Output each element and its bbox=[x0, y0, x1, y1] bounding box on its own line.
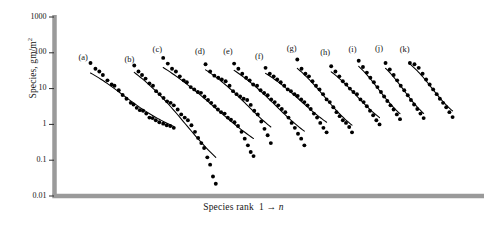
data-point bbox=[243, 137, 247, 141]
data-point bbox=[306, 103, 310, 107]
data-point bbox=[312, 112, 316, 116]
data-point bbox=[223, 112, 227, 116]
data-point bbox=[438, 97, 442, 101]
data-point bbox=[357, 59, 361, 63]
data-point bbox=[259, 120, 263, 124]
data-point bbox=[161, 56, 165, 60]
y-tick-label: 10 bbox=[39, 83, 47, 92]
data-point bbox=[235, 92, 239, 96]
data-point bbox=[337, 74, 341, 78]
series-label: (h) bbox=[320, 47, 330, 57]
data-point bbox=[199, 91, 203, 95]
data-point bbox=[321, 126, 325, 130]
series-fit-line bbox=[234, 70, 304, 131]
data-point bbox=[199, 141, 203, 145]
data-point bbox=[402, 88, 406, 92]
data-point bbox=[318, 121, 322, 125]
data-point bbox=[431, 87, 435, 91]
y-tick-label: 0.01 bbox=[33, 191, 47, 200]
data-point bbox=[372, 80, 376, 84]
data-point bbox=[307, 74, 311, 78]
data-point bbox=[348, 87, 352, 91]
data-point bbox=[441, 101, 445, 105]
data-point bbox=[212, 74, 216, 78]
data-point bbox=[347, 125, 351, 129]
data-point bbox=[351, 90, 355, 94]
x-axis-title-prefix: Species rank bbox=[203, 202, 254, 212]
series-label: (d) bbox=[195, 46, 205, 56]
data-point bbox=[209, 101, 213, 105]
data-point bbox=[202, 146, 206, 150]
data-point bbox=[368, 76, 372, 80]
data-point bbox=[275, 78, 279, 82]
data-point bbox=[186, 118, 190, 122]
data-point bbox=[395, 112, 399, 116]
data-point bbox=[314, 84, 318, 88]
data-point bbox=[226, 116, 230, 120]
series-label: (c) bbox=[153, 44, 162, 54]
data-point bbox=[338, 114, 342, 118]
data-point bbox=[384, 61, 388, 65]
data-point bbox=[179, 112, 183, 116]
data-point bbox=[216, 108, 220, 112]
data-point bbox=[240, 130, 244, 134]
data-point bbox=[303, 72, 307, 76]
data-point bbox=[147, 81, 151, 85]
data-point bbox=[266, 133, 270, 137]
data-point bbox=[302, 143, 306, 147]
series-fit-line bbox=[206, 70, 271, 127]
data-point bbox=[361, 65, 365, 69]
data-point bbox=[161, 122, 165, 126]
data-point bbox=[242, 97, 246, 101]
data-point bbox=[299, 137, 303, 141]
data-point bbox=[169, 101, 173, 105]
data-point bbox=[333, 70, 337, 74]
data-point bbox=[228, 84, 232, 88]
data-series bbox=[89, 56, 455, 186]
data-point bbox=[125, 97, 129, 101]
data-point bbox=[193, 130, 197, 134]
data-point bbox=[422, 116, 426, 120]
data-point bbox=[189, 123, 193, 127]
data-point bbox=[321, 92, 325, 96]
data-point bbox=[341, 118, 345, 122]
data-point bbox=[428, 83, 432, 87]
data-point bbox=[185, 80, 189, 84]
data-point bbox=[309, 107, 313, 111]
series-label: (g) bbox=[287, 43, 297, 53]
data-point bbox=[238, 95, 242, 99]
rank-abundance-figure: Species, gm/m2 Species rank 1 → n 100010… bbox=[0, 0, 487, 225]
data-point bbox=[105, 78, 109, 82]
data-point bbox=[331, 105, 335, 109]
data-point bbox=[359, 97, 363, 101]
data-point bbox=[282, 84, 286, 88]
data-point bbox=[415, 107, 419, 111]
data-point bbox=[214, 182, 218, 186]
series-fit-line bbox=[266, 73, 327, 122]
data-point bbox=[220, 78, 224, 82]
data-point bbox=[262, 91, 266, 95]
data-point bbox=[302, 100, 306, 104]
data-point bbox=[117, 88, 121, 92]
data-point bbox=[236, 124, 240, 128]
data-point bbox=[408, 61, 412, 65]
data-point bbox=[392, 73, 396, 77]
data-point bbox=[249, 103, 253, 107]
series-fit-line bbox=[91, 73, 174, 127]
data-point bbox=[144, 112, 148, 116]
data-point bbox=[365, 71, 369, 75]
data-point bbox=[263, 127, 267, 131]
data-point bbox=[421, 72, 425, 76]
data-point bbox=[205, 155, 209, 159]
data-point bbox=[325, 130, 329, 134]
data-point bbox=[249, 150, 253, 154]
data-point bbox=[413, 62, 417, 66]
data-point bbox=[251, 83, 255, 87]
data-point bbox=[236, 67, 240, 71]
data-point bbox=[287, 116, 291, 120]
data-point bbox=[174, 70, 178, 74]
data-point bbox=[382, 95, 386, 99]
data-point bbox=[289, 89, 293, 93]
data-point bbox=[315, 116, 319, 120]
data-point bbox=[162, 96, 166, 100]
